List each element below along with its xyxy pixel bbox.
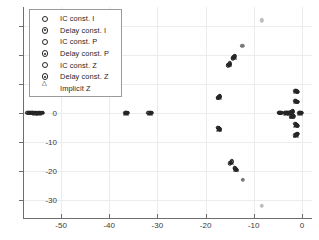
x-axis-tick-label: -30 xyxy=(152,221,164,230)
data-point xyxy=(293,132,299,137)
x-axis-tick xyxy=(109,214,110,219)
x-axis-tick-label: -50 xyxy=(55,221,67,230)
x-axis-tick xyxy=(157,214,158,219)
x-axis-tick xyxy=(302,214,303,219)
x-axis-tick-label: -20 xyxy=(200,221,212,230)
legend-marker-key xyxy=(30,86,60,91)
x-axis-line xyxy=(23,218,312,219)
legend-item-0[interactable]: IC const. I xyxy=(30,13,121,25)
data-point xyxy=(293,89,299,94)
data-point xyxy=(226,62,232,67)
y-axis-tick xyxy=(19,26,24,27)
data-point xyxy=(228,160,234,165)
circle-open-icon xyxy=(42,62,49,69)
x-axis-tick-label: -40 xyxy=(103,221,115,230)
legend-item-6[interactable]: Implicit Z xyxy=(30,83,121,95)
y-axis-tick-label: -20 xyxy=(41,166,57,175)
data-point xyxy=(147,110,153,115)
legend-marker-key xyxy=(30,16,60,23)
legend-item-label: IC const. I xyxy=(60,14,94,23)
y-axis-tick xyxy=(19,171,24,172)
triangle-open-icon xyxy=(42,86,48,91)
y-axis-tick xyxy=(19,55,24,56)
gridline-horizontal xyxy=(24,113,312,114)
legend-item-label: Delay const. Z xyxy=(60,72,109,81)
legend-item-2[interactable]: IC const. P xyxy=(30,36,121,48)
circle-dot-icon xyxy=(42,50,49,57)
y-axis-tick xyxy=(19,200,24,201)
data-point xyxy=(293,99,299,104)
legend-item-label: Delay const. P xyxy=(60,49,109,58)
legend-marker-key xyxy=(30,62,60,69)
data-point xyxy=(233,167,239,172)
data-point xyxy=(123,110,129,115)
gridline-horizontal xyxy=(24,171,312,172)
data-point xyxy=(260,204,264,208)
x-axis-tick xyxy=(254,214,255,219)
y-axis-tick xyxy=(19,142,24,143)
y-axis-tick xyxy=(19,113,24,114)
legend-item-label: Delay const. I xyxy=(60,26,106,35)
legend-item-label: Implicit Z xyxy=(60,84,91,93)
legend-item-label: IC const. Z xyxy=(60,61,97,70)
scatter-plot-figure: -50-40-30-20-1003020100-10-20-30 IC cons… xyxy=(0,0,319,240)
x-axis-tick-label: 0 xyxy=(300,221,304,230)
legend[interactable]: IC const. IDelay const. IIC const. PDela… xyxy=(29,9,122,97)
gridline-horizontal xyxy=(24,142,312,143)
data-point xyxy=(260,18,264,22)
data-point xyxy=(240,43,244,47)
y-axis-tick-label: -30 xyxy=(41,195,57,204)
circle-open-icon xyxy=(42,39,49,46)
data-point xyxy=(241,178,245,182)
legend-item-1[interactable]: Delay const. I xyxy=(30,25,121,37)
data-point xyxy=(293,122,299,127)
legend-item-3[interactable]: Delay const. P xyxy=(30,48,121,60)
y-axis-tick-label: 0 xyxy=(41,108,57,117)
legend-item-4[interactable]: IC const. Z xyxy=(30,59,121,71)
y-axis-tick-label: -10 xyxy=(41,137,57,146)
data-point xyxy=(216,126,222,131)
x-axis-tick-label: -10 xyxy=(248,221,260,230)
circle-dot-icon xyxy=(42,27,49,34)
x-axis-tick xyxy=(206,214,207,219)
gridline-horizontal xyxy=(24,200,312,201)
legend-marker-key xyxy=(30,39,60,46)
legend-marker-key xyxy=(30,27,60,34)
circle-open-icon xyxy=(42,16,49,23)
legend-marker-key xyxy=(30,50,60,57)
data-point xyxy=(289,113,295,118)
data-point xyxy=(216,95,222,100)
legend-item-label: IC const. P xyxy=(60,37,97,46)
data-point xyxy=(231,55,237,60)
y-axis-tick xyxy=(19,84,24,85)
data-point xyxy=(297,110,303,115)
x-axis-tick xyxy=(61,214,62,219)
